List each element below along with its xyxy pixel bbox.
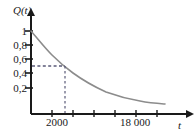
y-tick-label: 0,8: [3, 40, 27, 51]
decay-curve: [31, 31, 165, 104]
y-axis-title: Q(t): [13, 5, 31, 16]
y-tick-label: 1: [3, 26, 27, 37]
x-axis-arrow-icon: [186, 110, 194, 118]
y-tick-label: 0,6: [3, 54, 27, 65]
x-tick-label: 18 000: [113, 117, 157, 128]
x-axis-title: t: [178, 120, 181, 131]
decay-graph-figure: Q(t) t 1 0,8 0,6 0,4 0,2 2000 18 000: [0, 0, 196, 139]
x-tick-label: 2000: [36, 117, 78, 128]
y-tick-label: 0,2: [3, 83, 27, 94]
plot-canvas: [0, 0, 196, 139]
y-tick-label: 0,4: [3, 68, 27, 79]
